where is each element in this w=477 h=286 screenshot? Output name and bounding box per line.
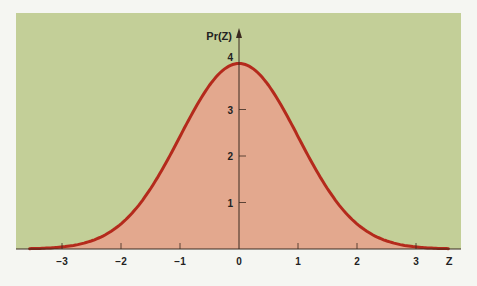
x-tick-label: −3 <box>56 256 68 267</box>
x-axis-title: Z <box>446 255 453 267</box>
x-tick-label: 2 <box>354 256 360 267</box>
x-tick-label: 0 <box>236 256 242 267</box>
x-tick-label: −1 <box>174 256 186 267</box>
x-tick-label: 3 <box>413 256 419 267</box>
x-tick-label: −2 <box>115 256 127 267</box>
y-tick-label: 3 <box>227 105 233 116</box>
y-tick-label: 2 <box>227 151 233 162</box>
y-tick-label: 1 <box>227 198 233 209</box>
y-axis-title: Pr(Z) <box>206 30 232 42</box>
x-tick-label: 1 <box>295 256 301 267</box>
y-tick-label: 4 <box>227 52 233 63</box>
normal-distribution-chart: −3−2−10123 1234 Pr(Z) Z <box>0 0 477 286</box>
